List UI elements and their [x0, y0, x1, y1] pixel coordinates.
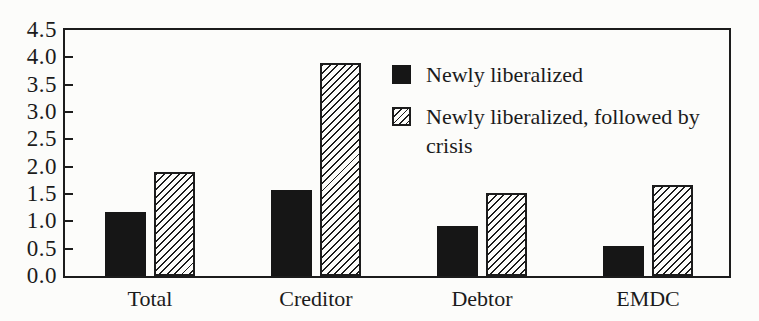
bar-creditor-newly-liberalized-crisis [320, 63, 361, 276]
y-tick-mark-1.0 [65, 220, 73, 222]
y-tick-mark-3.0 [65, 111, 73, 113]
legend-label-newly-liberalized: Newly liberalized [426, 60, 583, 89]
y-tick-label-4.5: 4.5 [0, 18, 57, 42]
category-label-creditor: Creditor [279, 286, 352, 312]
y-tick-label-2.0: 2.0 [0, 155, 57, 179]
y-tick-label-0.0: 0.0 [0, 264, 57, 288]
bar-emdc-newly-liberalized-crisis [652, 185, 693, 276]
plot-area: Newly liberalized Newly liberalized, fol… [63, 28, 731, 278]
category-label-total: Total [128, 286, 173, 312]
bar-emdc-newly-liberalized [603, 246, 644, 276]
y-tick-mark-4.0 [65, 56, 73, 58]
y-tick-mark-2.5 [65, 138, 73, 140]
legend-item-newly-liberalized-crisis: Newly liberalized, followed by crisis [392, 102, 718, 160]
y-tick-mark-0.5 [65, 248, 73, 250]
legend-item-newly-liberalized: Newly liberalized [392, 60, 718, 89]
chart-container: Newly liberalized Newly liberalized, fol… [0, 0, 759, 321]
bar-total-newly-liberalized [105, 212, 146, 277]
legend-label-newly-liberalized-crisis: Newly liberalized, followed by crisis [426, 102, 718, 160]
y-tick-label-3.0: 3.0 [0, 100, 57, 124]
legend: Newly liberalized Newly liberalized, fol… [392, 60, 718, 173]
y-tick-mark-3.5 [65, 84, 73, 86]
y-tick-mark-1.5 [65, 193, 73, 195]
category-label-debtor: Debtor [451, 286, 512, 312]
y-tick-label-1.0: 1.0 [0, 209, 57, 233]
bar-creditor-newly-liberalized [271, 190, 312, 276]
y-tick-mark-2.0 [65, 166, 73, 168]
bar-debtor-newly-liberalized-crisis [486, 193, 527, 276]
solid-black-square-icon [392, 65, 411, 84]
y-tick-label-0.5: 0.5 [0, 237, 57, 261]
category-label-emdc: EMDC [616, 286, 680, 312]
bar-total-newly-liberalized-crisis [154, 172, 195, 276]
y-tick-label-2.5: 2.5 [0, 127, 57, 151]
y-tick-label-4.0: 4.0 [0, 45, 57, 69]
bar-debtor-newly-liberalized [437, 226, 478, 276]
y-tick-label-1.5: 1.5 [0, 182, 57, 206]
y-tick-label-3.5: 3.5 [0, 73, 57, 97]
hatched-square-icon [392, 107, 411, 126]
